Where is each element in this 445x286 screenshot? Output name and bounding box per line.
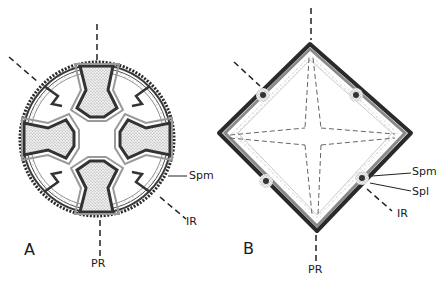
panel-label-b: B <box>243 241 254 257</box>
label-a-pr: PR <box>91 258 105 269</box>
label-b-ir: IR <box>397 208 408 219</box>
label-b-spl: Spl <box>412 186 429 197</box>
diagram-figure: Spm IR PR A Spm Spl IR PR B <box>0 0 445 286</box>
panel-a-drawing <box>9 24 187 256</box>
panel-b-drawing <box>219 8 411 263</box>
label-b-pr: PR <box>308 264 322 275</box>
label-b-spm: Spm <box>412 166 437 177</box>
label-a-spm: Spm <box>189 170 214 181</box>
label-a-ir: IR <box>186 216 197 227</box>
panel-label-a: A <box>24 242 35 258</box>
